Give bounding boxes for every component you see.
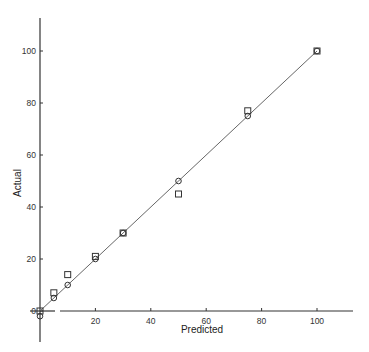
x-tick-label: 40 bbox=[146, 316, 156, 326]
y-tick-label: 0 bbox=[31, 306, 36, 316]
y-tick-label: 80 bbox=[27, 98, 37, 108]
y-tick-label: 20 bbox=[27, 254, 37, 264]
x-tick-label: 100 bbox=[310, 316, 324, 326]
x-tick-label: 20 bbox=[91, 316, 101, 326]
x-axis-label: Predicted bbox=[181, 324, 223, 335]
square-marker bbox=[176, 191, 182, 197]
scatter-chart: 20406080100020406080100 Predicted Actual bbox=[0, 0, 369, 352]
square-marker bbox=[65, 272, 71, 278]
y-tick-label: 100 bbox=[22, 46, 36, 56]
y-tick-label: 40 bbox=[27, 202, 37, 212]
axes bbox=[30, 18, 353, 342]
y-axis-label: Actual bbox=[12, 169, 23, 197]
reference-line-y-equals-x bbox=[40, 51, 317, 311]
data-markers bbox=[37, 48, 320, 319]
y-tick-label: 60 bbox=[27, 150, 37, 160]
x-tick-label: 80 bbox=[257, 316, 267, 326]
